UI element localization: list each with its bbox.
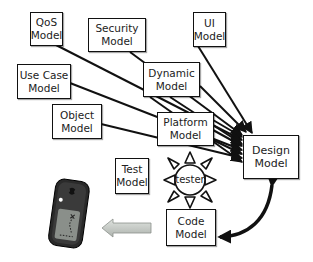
gps-device-icon [0,0,313,262]
diagram-canvas: QoS Model Security Model UI Model Dynami… [0,0,313,262]
tester-label: tester [175,174,205,185]
